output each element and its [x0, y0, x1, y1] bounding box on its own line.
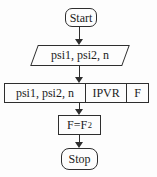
arrow-assign-to-stop-line [79, 135, 81, 142]
start-node: Start [65, 8, 97, 27]
flowchart-canvas: Start psi1, psi2, n psi1, psi2, n IPVR F… [0, 0, 157, 177]
arrow-start-to-input-line [79, 27, 81, 39]
stop-node: Stop [61, 148, 98, 170]
process-node: psi1, psi2, n IPVR F [4, 83, 149, 103]
process-cell-args: psi1, psi2, n [5, 84, 85, 102]
assign-node: F=F2 [58, 115, 101, 135]
start-label: Start [70, 12, 93, 24]
process-cell-f: F [126, 84, 148, 102]
arrow-input-to-process-line [79, 66, 81, 77]
stop-label: Stop [68, 153, 90, 165]
process-cell-ipvr: IPVR [85, 84, 126, 102]
input-node-label: psi1, psi2, n [30, 45, 130, 66]
assign-label-base: F=F [67, 119, 87, 131]
